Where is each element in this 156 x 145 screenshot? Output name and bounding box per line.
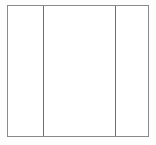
left-panel-content — [8, 6, 43, 136]
left-panel[interactable] — [8, 6, 43, 136]
diagram-canvas — [0, 0, 156, 145]
right-panel[interactable] — [115, 6, 148, 136]
right-panel-content — [116, 6, 148, 136]
center-panel[interactable] — [43, 6, 115, 136]
center-panel-content — [44, 6, 115, 136]
panel-frame — [7, 5, 149, 137]
